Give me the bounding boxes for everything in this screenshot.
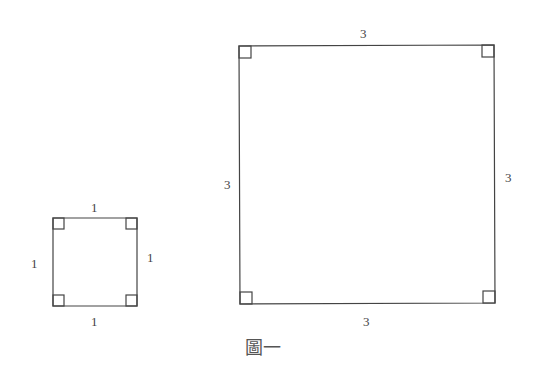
right-angle-marker bbox=[53, 295, 64, 306]
small-square-top-label: 1 bbox=[91, 200, 98, 216]
large-square-top-label: 3 bbox=[360, 26, 367, 42]
figure-caption: 圖一 bbox=[245, 333, 281, 359]
large-square bbox=[239, 45, 495, 304]
right-angle-marker bbox=[53, 218, 64, 229]
small-square-bottom-label: 1 bbox=[91, 314, 98, 330]
right-angle-marker bbox=[126, 218, 137, 229]
right-angle-marker bbox=[483, 291, 495, 303]
right-angle-marker bbox=[239, 46, 251, 58]
diagram-canvas bbox=[0, 0, 541, 372]
large-square-left-label: 3 bbox=[224, 177, 231, 193]
right-angle-marker bbox=[482, 45, 494, 57]
small-square-left-label: 1 bbox=[31, 256, 38, 272]
large-square-right-label: 3 bbox=[505, 170, 512, 186]
right-angle-marker bbox=[240, 292, 252, 304]
small-square-right-label: 1 bbox=[147, 250, 154, 266]
large-square-bottom-label: 3 bbox=[363, 314, 370, 330]
small-square bbox=[53, 218, 137, 306]
right-angle-marker bbox=[126, 295, 137, 306]
